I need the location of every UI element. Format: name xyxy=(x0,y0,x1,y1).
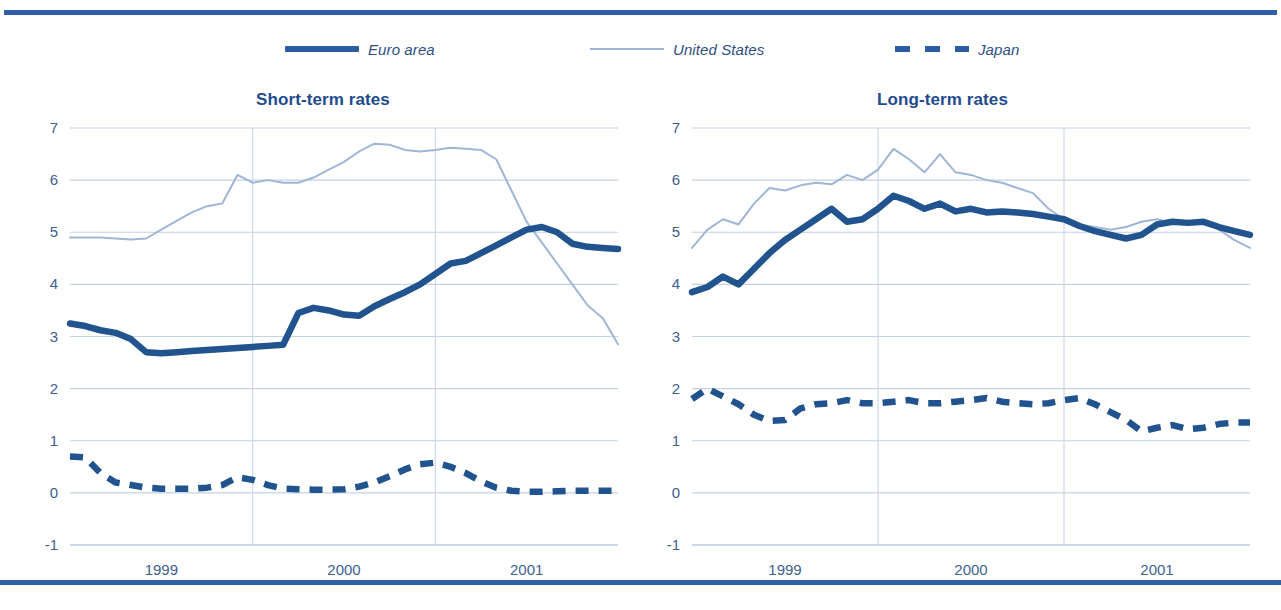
interest-rates-figure: Euro area United States Japan Short-term… xyxy=(0,0,1281,610)
y-axis-tick-label: -1 xyxy=(667,536,680,553)
y-axis-tick-label: 0 xyxy=(672,484,680,501)
x-axis-tick-label: 2001 xyxy=(510,561,543,578)
series-line-euro-area xyxy=(692,196,1250,292)
y-axis-tick-label: 3 xyxy=(50,328,58,345)
plot-svg-long-term: -101234567199920002001 xyxy=(620,90,1265,560)
series-line-japan xyxy=(692,389,1250,432)
legend-item-japan: Japan xyxy=(895,36,1019,62)
y-axis-tick-label: 6 xyxy=(672,171,680,188)
legend-label-euro-area: Euro area xyxy=(368,41,435,58)
legend-swatch-dashed-icon xyxy=(895,46,969,52)
y-axis-tick-label: 1 xyxy=(672,432,680,449)
x-axis-tick-label: 2001 xyxy=(1140,561,1173,578)
series-line-united-states xyxy=(692,149,1250,248)
y-axis-tick-label: -1 xyxy=(45,536,58,553)
plot-area-short-term: -101234567199920002001 xyxy=(18,90,628,560)
legend-label-japan: Japan xyxy=(978,41,1019,58)
top-rule xyxy=(4,10,1277,15)
legend-swatch-thin-icon xyxy=(590,48,664,50)
y-axis-tick-label: 2 xyxy=(672,380,680,397)
legend-swatch-solid-icon xyxy=(285,46,359,52)
y-axis-tick-label: 3 xyxy=(672,328,680,345)
y-axis-tick-label: 1 xyxy=(50,432,58,449)
y-axis-tick-label: 0 xyxy=(50,484,58,501)
series-line-euro-area xyxy=(70,227,618,353)
y-axis-tick-label: 6 xyxy=(50,171,58,188)
x-axis-tick-label: 1999 xyxy=(145,561,178,578)
y-axis-tick-label: 4 xyxy=(672,275,680,292)
legend-label-united-states: United States xyxy=(673,41,764,58)
legend-item-united-states: United States xyxy=(590,36,764,62)
legend-item-euro-area: Euro area xyxy=(285,36,435,62)
chart-legend: Euro area United States Japan xyxy=(0,36,1281,62)
plot-svg-short-term: -101234567199920002001 xyxy=(18,90,628,560)
series-line-japan xyxy=(70,456,618,491)
y-axis-tick-label: 7 xyxy=(672,119,680,136)
plot-area-long-term: -101234567199920002001 xyxy=(620,90,1265,560)
panel-short-term-rates: Short-term rates -101234567199920002001 xyxy=(18,90,628,560)
y-axis-tick-label: 5 xyxy=(672,223,680,240)
x-axis-tick-label: 1999 xyxy=(768,561,801,578)
x-axis-tick-label: 2000 xyxy=(327,561,360,578)
y-axis-tick-label: 4 xyxy=(50,275,58,292)
panel-long-term-rates: Long-term rates -101234567199920002001 xyxy=(620,90,1265,560)
bottom-rule xyxy=(0,580,1281,585)
y-axis-tick-label: 7 xyxy=(50,119,58,136)
y-axis-tick-label: 5 xyxy=(50,223,58,240)
y-axis-tick-label: 2 xyxy=(50,380,58,397)
x-axis-tick-label: 2000 xyxy=(954,561,987,578)
